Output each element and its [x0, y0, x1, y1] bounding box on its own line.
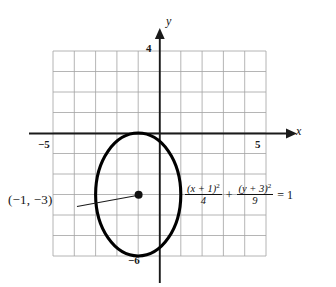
center-point-label: (−1, −3) [8, 192, 52, 208]
tick-label-x-5: 5 [255, 138, 261, 150]
figure-background [0, 0, 336, 287]
equation-term-2-exponent: 2 [268, 182, 272, 190]
equation-term-1-numerator: (x + 1)2 [185, 183, 222, 194]
graph-figure [0, 0, 336, 287]
equation-term-1-denominator: 4 [199, 195, 208, 206]
equation-term-2-denominator: 9 [250, 195, 259, 206]
equation-term-1: (x + 1)2 4 [185, 183, 222, 206]
tick-label-y-neg6: −6 [128, 254, 140, 266]
tick-label-x-neg5: −5 [38, 138, 50, 150]
equation-term-1-numerator-base: (x + 1) [187, 183, 216, 194]
x-axis-label: x [296, 124, 301, 139]
equation-term-2-numerator-base: (y + 3) [239, 183, 268, 194]
tick-label-y-4: 4 [146, 42, 152, 54]
equation-term-1-exponent: 2 [216, 182, 220, 190]
equation-term-2: (y + 3)2 9 [237, 183, 274, 206]
equation-term-2-numerator: (y + 3)2 [237, 183, 274, 194]
ellipse-equation: (x + 1)2 4 + (y + 3)2 9 = 1 [185, 183, 293, 206]
y-axis-label: y [166, 14, 171, 29]
center-point-dot [135, 191, 143, 199]
equation-plus-operator: + [224, 189, 235, 201]
equation-equals-one: = 1 [275, 189, 293, 201]
